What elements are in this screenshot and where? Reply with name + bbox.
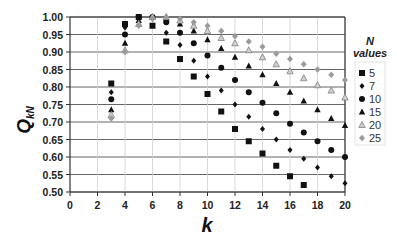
legend-marker-n25 [359, 135, 365, 141]
legend-label-n7: 7 [369, 80, 375, 92]
data-point-n20 [232, 40, 238, 46]
data-point-n7 [260, 126, 265, 132]
legend-label-n10: 10 [369, 93, 381, 105]
data-point-n7 [109, 89, 114, 95]
data-points [108, 14, 348, 189]
x-tick-label: 4 [122, 199, 128, 211]
data-point-n10 [342, 154, 348, 160]
data-point-n10 [328, 147, 334, 153]
data-point-n25 [301, 61, 307, 67]
data-point-n25 [328, 72, 334, 78]
data-point-n7 [343, 180, 348, 186]
data-point-n25 [232, 33, 238, 39]
data-point-n5 [232, 126, 238, 132]
data-point-n20 [342, 94, 348, 100]
y-tick-label: 0.75 [43, 99, 64, 111]
data-point-n25 [191, 19, 197, 25]
y-tick-label: 0.85 [43, 64, 64, 76]
data-point-n10 [301, 130, 307, 136]
data-point-n10 [177, 30, 183, 36]
data-point-n25 [287, 56, 293, 62]
data-point-n7 [219, 88, 224, 94]
data-point-n10 [232, 77, 238, 83]
legend-marker-n7 [360, 83, 365, 89]
legend-label-n5: 5 [369, 67, 375, 79]
data-point-n15 [246, 63, 252, 69]
data-point-n5 [246, 138, 252, 144]
data-point-n5 [108, 81, 114, 87]
y-axis-title-main: Q [13, 119, 34, 134]
data-point-n15 [287, 89, 293, 95]
legend-marker-n5 [359, 70, 365, 76]
data-point-n5 [273, 163, 279, 169]
data-point-n5 [260, 151, 266, 157]
data-point-n25 [205, 23, 211, 29]
data-point-n7 [246, 114, 251, 120]
y-tick-label: 0.50 [43, 186, 64, 198]
data-point-n25 [315, 66, 321, 72]
x-tick-label: 2 [95, 199, 101, 211]
data-point-n15 [314, 106, 320, 112]
data-point-n20 [301, 75, 307, 81]
data-point-n10 [205, 53, 211, 59]
y-tick-label: 0.90 [43, 46, 64, 58]
x-tick-label: 8 [177, 199, 183, 211]
data-point-n7 [205, 74, 210, 80]
axes [66, 17, 345, 196]
data-point-n10 [191, 40, 197, 46]
legend-title-values: values [353, 47, 387, 59]
y-axis-tick-labels: 0.500.550.600.650.700.750.800.850.900.95… [43, 11, 64, 198]
data-point-n10 [273, 110, 279, 116]
x-tick-label: 10 [202, 199, 214, 211]
data-point-n7 [233, 102, 238, 108]
y-tick-label: 0.70 [43, 116, 64, 128]
data-point-n25 [246, 38, 252, 44]
data-point-n15 [204, 36, 210, 42]
legend-label-n15: 15 [369, 106, 381, 118]
legend: N values 5710152025 [353, 35, 387, 145]
data-point-n20 [259, 54, 265, 60]
data-point-n5 [301, 182, 307, 188]
data-point-n15 [301, 98, 307, 104]
data-point-n20 [328, 87, 334, 93]
data-point-n20 [246, 47, 252, 53]
data-point-n10 [260, 100, 266, 106]
data-point-n25 [218, 28, 224, 34]
data-point-n10 [218, 65, 224, 71]
data-point-n15 [122, 40, 128, 46]
data-point-n5 [191, 74, 197, 80]
y-axis-title-subscript: kN [25, 105, 36, 119]
data-point-n7 [315, 165, 320, 171]
y-tick-label: 0.55 [43, 169, 64, 181]
data-point-n7 [178, 42, 183, 48]
y-tick-label: 0.80 [43, 81, 64, 93]
x-axis-title: k [201, 214, 213, 236]
data-point-n10 [287, 121, 293, 127]
data-point-n20 [287, 68, 293, 74]
data-point-n5 [163, 39, 169, 45]
data-point-n15 [328, 115, 334, 121]
data-point-n7 [274, 137, 279, 143]
legend-marker-n10 [359, 96, 365, 102]
x-tick-label: 18 [312, 199, 324, 211]
data-point-n15 [273, 80, 279, 86]
y-tick-label: 1.00 [43, 11, 64, 23]
legend-label-n25: 25 [369, 132, 381, 144]
legend-marker-n20 [359, 122, 365, 128]
data-point-n5 [150, 23, 156, 29]
y-axis-title: QkN [13, 105, 36, 133]
x-axis-tick-labels: 02468101214161820 [67, 199, 351, 211]
data-point-n10 [122, 32, 128, 38]
data-point-n5 [287, 173, 293, 179]
y-tick-label: 0.60 [43, 151, 64, 163]
legend-label-n20: 20 [369, 119, 381, 131]
x-tick-label: 6 [150, 199, 156, 211]
y-tick-label: 0.65 [43, 134, 64, 146]
legend-marker-n15 [359, 109, 365, 115]
x-tick-label: 12 [229, 199, 241, 211]
data-point-n10 [108, 96, 114, 102]
data-point-n15 [218, 45, 224, 51]
legend-title-n: N [366, 35, 375, 47]
grid-lines [70, 17, 345, 192]
data-point-n15 [342, 122, 348, 128]
